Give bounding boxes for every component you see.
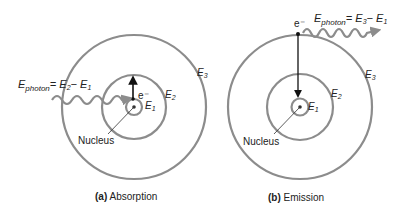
nucleus-pointer — [274, 108, 299, 134]
caption-emission: (b) Emission — [268, 192, 324, 203]
nucleus-label: Nucleus — [243, 136, 279, 147]
level-e1-label: E1 — [308, 101, 319, 113]
photon-energy-label: Ephoton= E3− E1 — [314, 12, 387, 27]
photon-energy-label: Ephoton= E2− E1 — [18, 78, 91, 93]
level-e2-label: E2 — [331, 88, 342, 100]
level-e3-label: E3 — [365, 69, 376, 81]
panel-emission: e⁻ Ephoton= E3− E1 E1 E2 E3 Nucleus (b) … — [228, 12, 387, 203]
level-e1-label: E1 — [145, 100, 156, 112]
nucleus-label: Nucleus — [78, 135, 114, 146]
electron-dot — [296, 32, 300, 36]
electron-label: e⁻ — [294, 18, 305, 29]
panel-absorption: Ephoton= E2− E1 e⁻ E1 E2 E3 Nucleus (a) … — [18, 35, 208, 202]
level-e2-label: E2 — [165, 89, 176, 101]
atom-energy-diagram: Ephoton= E2− E1 e⁻ E1 E2 E3 Nucleus (a) … — [0, 0, 417, 219]
level-e3-label: E3 — [197, 67, 208, 79]
nucleus-pointer — [108, 108, 133, 134]
caption-absorption: (a) Absorption — [95, 191, 157, 202]
electron-dot — [131, 97, 135, 101]
photon-wave-out — [303, 29, 375, 37]
